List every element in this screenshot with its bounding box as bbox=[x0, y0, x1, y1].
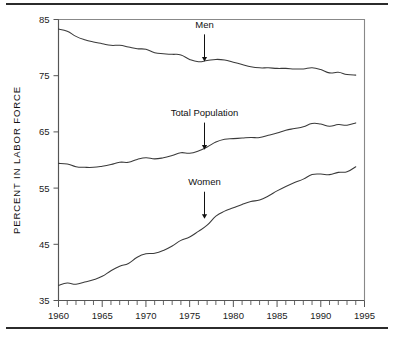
annotation-arrow-head bbox=[202, 214, 207, 219]
x-tick-label: 1975 bbox=[179, 310, 200, 321]
plot-border bbox=[59, 20, 365, 301]
labor-force-line-chart: 354555657585 196019651970197519801985199… bbox=[0, 0, 394, 341]
x-tick-label: 1995 bbox=[354, 310, 375, 321]
series-line-men bbox=[59, 29, 356, 75]
series-line-total-population bbox=[59, 123, 356, 168]
annotation-total-population: Total Population bbox=[171, 107, 239, 150]
annotation-men: Men bbox=[195, 19, 213, 62]
x-tick-label: 1990 bbox=[310, 310, 331, 321]
y-tick-label: 85 bbox=[39, 14, 50, 25]
y-axis-title: PERCENT IN LABOR FORCE bbox=[11, 86, 22, 234]
x-tick-label: 1965 bbox=[92, 310, 113, 321]
y-tick-labels: 354555657585 bbox=[39, 14, 50, 306]
y-axis-title-text: PERCENT IN LABOR FORCE bbox=[11, 86, 22, 234]
y-tick-label: 35 bbox=[39, 295, 50, 306]
x-tick-labels: 19601965197019751980198519901995 bbox=[48, 310, 375, 321]
x-tick-label: 1970 bbox=[135, 310, 156, 321]
figure-panel: 354555657585 196019651970197519801985199… bbox=[0, 0, 394, 341]
y-tick-label: 55 bbox=[39, 183, 50, 194]
x-tick-label: 1985 bbox=[267, 310, 288, 321]
annotation-label: Total Population bbox=[171, 107, 239, 118]
plot-frame bbox=[59, 20, 365, 301]
x-tick-label: 1980 bbox=[223, 310, 244, 321]
series-lines bbox=[59, 29, 356, 285]
y-tick-label: 45 bbox=[39, 239, 50, 250]
y-tick-label: 75 bbox=[39, 70, 50, 81]
x-tick-label: 1960 bbox=[48, 310, 69, 321]
annotation-label: Men bbox=[195, 19, 213, 30]
annotation-label: Women bbox=[188, 176, 221, 187]
y-tick-label: 65 bbox=[39, 126, 50, 137]
series-annotations: MenTotal PopulationWomen bbox=[171, 19, 239, 219]
axis-ticks bbox=[54, 20, 365, 308]
annotation-women: Women bbox=[188, 176, 221, 219]
